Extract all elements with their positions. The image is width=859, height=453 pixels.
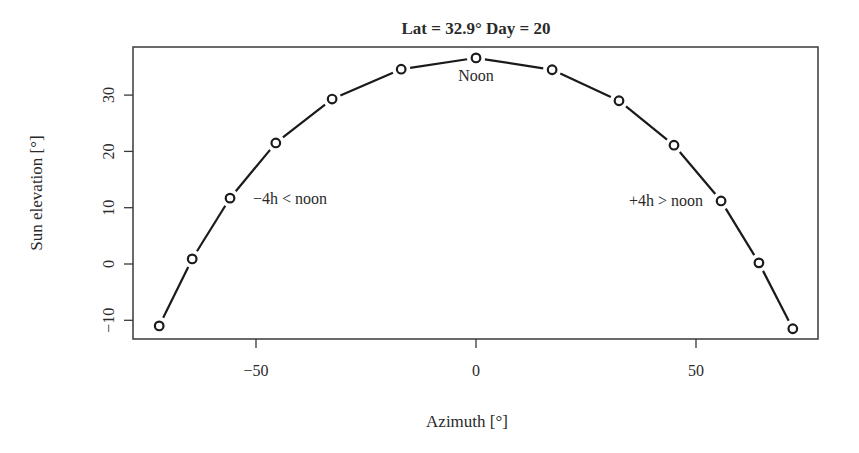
series-line-segment <box>236 150 270 191</box>
series-line-segment <box>726 209 754 256</box>
x-tick-label: −50 <box>243 362 268 379</box>
y-tick-label: −10 <box>100 308 117 333</box>
y-tick-label: 30 <box>100 87 117 103</box>
x-tick-label: 0 <box>472 362 480 379</box>
y-axis-label: Sun elevation [°] <box>27 135 46 250</box>
data-point-marker <box>226 194 235 203</box>
series-line-segment <box>626 106 667 139</box>
data-point-marker <box>548 65 557 74</box>
y-tick-label: 10 <box>100 200 117 216</box>
data-point-marker <box>188 255 197 264</box>
annotations: Noon−4h < noon+4h > noon <box>253 67 703 209</box>
data-point-marker <box>670 141 679 150</box>
sun-path-chart: Lat = 32.9° Day = 20 −50050 −100102030 A… <box>0 0 859 453</box>
series-line-segment <box>197 206 225 252</box>
series-line-segment <box>340 73 393 96</box>
data-point-marker <box>328 95 337 104</box>
data-point-marker <box>272 139 281 148</box>
data-point-marker <box>155 322 164 331</box>
data-point-marker <box>472 54 481 63</box>
x-tick-label: 50 <box>688 362 704 379</box>
y-tick-label: 20 <box>100 143 117 159</box>
data-point-marker <box>789 324 798 333</box>
series-line-segment <box>163 267 188 318</box>
annotation-label: +4h > noon <box>629 192 703 209</box>
annotation-label: Noon <box>458 67 494 84</box>
x-axis-label: Azimuth [°] <box>426 412 508 431</box>
data-point-marker <box>615 96 624 105</box>
x-axis: −50050 <box>243 339 704 379</box>
data-point-marker <box>717 197 726 206</box>
series-line-segment <box>283 105 325 138</box>
chart-title: Lat = 32.9° Day = 20 <box>402 19 551 38</box>
series-line-segment <box>680 152 715 194</box>
series-line-segment <box>763 271 789 321</box>
y-axis: −100102030 <box>100 87 133 333</box>
data-point-marker <box>397 65 406 74</box>
y-tick-label: 0 <box>100 260 117 268</box>
data-point-marker <box>755 259 764 268</box>
series-line-segment <box>560 74 611 97</box>
annotation-label: −4h < noon <box>253 190 327 207</box>
